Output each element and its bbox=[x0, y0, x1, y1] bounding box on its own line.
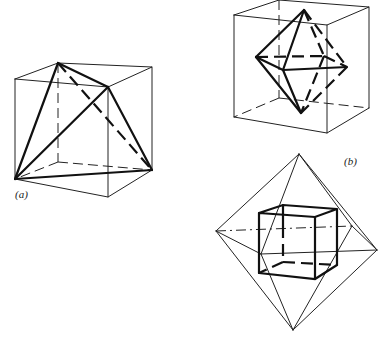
figure-c-octahedron-cube bbox=[216, 154, 377, 330]
figure-b-cube-octahedron bbox=[234, 0, 369, 133]
polyhedra-diagram bbox=[0, 0, 387, 345]
figure-b-label: (b) bbox=[344, 155, 357, 167]
figure-a-label: (a) bbox=[15, 188, 28, 200]
figure-a-cube-tetrahedron bbox=[15, 63, 152, 197]
